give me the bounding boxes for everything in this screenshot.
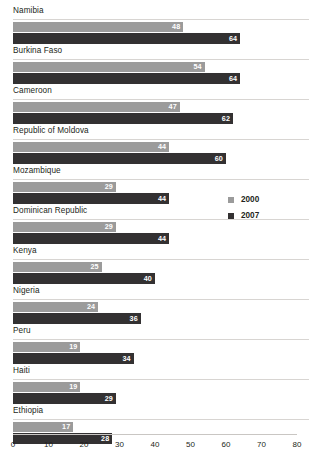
bar-fill: 29 (13, 182, 116, 192)
bar-2007[interactable]: 62 (13, 113, 233, 124)
bar-fill: 36 (13, 313, 141, 324)
bar-fill: 34 (13, 353, 134, 364)
group-divider (13, 379, 309, 380)
bar-value-label: 19 (69, 383, 77, 390)
bar-value-label: 29 (105, 223, 113, 230)
group-divider (13, 259, 309, 260)
bar-group: Namibia4864 (0, 5, 313, 45)
bar-value-label: 40 (144, 275, 152, 282)
group-divider (13, 419, 309, 420)
x-axis-tick-label: 50 (186, 440, 195, 449)
bar-2007[interactable]: 64 (13, 73, 240, 84)
horizontal-grouped-bar-chart: Namibia4864Burkina Faso5464Cameroon4762R… (0, 0, 313, 462)
bar-2007[interactable]: 40 (13, 273, 155, 284)
x-axis-tick-label: 30 (115, 440, 124, 449)
category-label: Peru (13, 326, 31, 336)
bar-value-label: 29 (105, 395, 113, 402)
x-axis-tick-label: 80 (293, 440, 302, 449)
bar-value-label: 17 (62, 423, 70, 430)
bar-fill: 64 (13, 33, 240, 44)
bar-fill: 60 (13, 153, 226, 164)
group-divider (13, 99, 309, 100)
bar-value-label: 64 (229, 75, 237, 82)
bar-fill: 54 (13, 62, 205, 72)
bar-value-label: 24 (87, 303, 95, 310)
bar-2000[interactable]: 24 (13, 302, 98, 312)
x-axis-line (13, 434, 297, 435)
bar-2000[interactable]: 29 (13, 182, 116, 192)
bar-fill: 29 (13, 222, 116, 232)
bar-2000[interactable]: 48 (13, 22, 183, 32)
x-axis-tick-label: 60 (222, 440, 231, 449)
bar-fill: 24 (13, 302, 98, 312)
bar-fill: 44 (13, 193, 169, 204)
bar-fill: 19 (13, 382, 80, 392)
bar-fill: 48 (13, 22, 183, 32)
bar-2007[interactable]: 34 (13, 353, 134, 364)
chart-legend: 2000 2007 (228, 193, 298, 225)
category-label: Cameroon (13, 86, 52, 96)
bar-value-label: 34 (122, 355, 130, 362)
bar-fill: 44 (13, 142, 169, 152)
bar-2000[interactable]: 19 (13, 382, 80, 392)
x-axis-tick-label: 0 (11, 440, 15, 449)
x-axis-tick-label: 20 (80, 440, 89, 449)
category-label: Dominican Republic (13, 206, 87, 216)
bar-group: Republic of Moldova4460 (0, 125, 313, 165)
group-divider (13, 339, 309, 340)
bar-2007[interactable]: 36 (13, 313, 141, 324)
bar-2000[interactable]: 17 (13, 422, 73, 432)
category-label: Burkina Faso (13, 46, 62, 56)
bar-value-label: 44 (158, 195, 166, 202)
bar-fill: 17 (13, 422, 73, 432)
x-axis-tick-label: 40 (151, 440, 160, 449)
category-label: Kenya (13, 246, 37, 256)
bar-2007[interactable]: 44 (13, 193, 169, 204)
category-label: Nigeria (13, 286, 40, 296)
bar-2000[interactable]: 54 (13, 62, 205, 72)
bar-value-label: 44 (158, 143, 166, 150)
bar-fill: 19 (13, 342, 80, 352)
bar-value-label: 62 (222, 115, 230, 122)
bar-2000[interactable]: 29 (13, 222, 116, 232)
category-label: Mozambique (13, 166, 61, 176)
bar-2000[interactable]: 19 (13, 342, 80, 352)
bar-2007[interactable]: 44 (13, 233, 169, 244)
bar-value-label: 25 (90, 263, 98, 270)
bar-fill: 62 (13, 113, 233, 124)
legend-item-2007[interactable]: 2007 (228, 209, 298, 223)
bar-2000[interactable]: 44 (13, 142, 169, 152)
category-label: Haiti (13, 366, 30, 376)
bar-group: Peru1934 (0, 325, 313, 365)
bar-value-label: 48 (172, 23, 180, 30)
x-axis-tick-label: 70 (257, 440, 266, 449)
bar-2007[interactable]: 60 (13, 153, 226, 164)
bar-value-label: 60 (215, 155, 223, 162)
group-divider (13, 299, 309, 300)
bar-2000[interactable]: 25 (13, 262, 102, 272)
x-axis-tick-label: 10 (44, 440, 53, 449)
bar-value-label: 44 (158, 235, 166, 242)
x-axis: 01020304050607080 (0, 434, 313, 458)
bar-fill: 25 (13, 262, 102, 272)
group-divider (13, 59, 309, 60)
bar-value-label: 36 (130, 315, 138, 322)
group-divider (13, 179, 309, 180)
bar-fill: 40 (13, 273, 155, 284)
legend-swatch-icon-2000 (228, 197, 234, 203)
bar-fill: 64 (13, 73, 240, 84)
bar-fill: 47 (13, 102, 180, 112)
legend-item-2000[interactable]: 2000 (228, 193, 298, 207)
bar-group: Haiti1929 (0, 365, 313, 405)
legend-swatch-icon-2007 (228, 213, 234, 219)
bar-fill: 44 (13, 233, 169, 244)
category-label: Ethiopia (13, 406, 43, 416)
bar-2007[interactable]: 64 (13, 33, 240, 44)
legend-label-2000: 2000 (241, 196, 259, 204)
bar-value-label: 29 (105, 183, 113, 190)
bar-2007[interactable]: 29 (13, 393, 116, 404)
bar-2000[interactable]: 47 (13, 102, 180, 112)
bar-group: Kenya2540 (0, 245, 313, 285)
bar-value-label: 54 (193, 63, 201, 70)
category-label: Republic of Moldova (13, 126, 89, 136)
